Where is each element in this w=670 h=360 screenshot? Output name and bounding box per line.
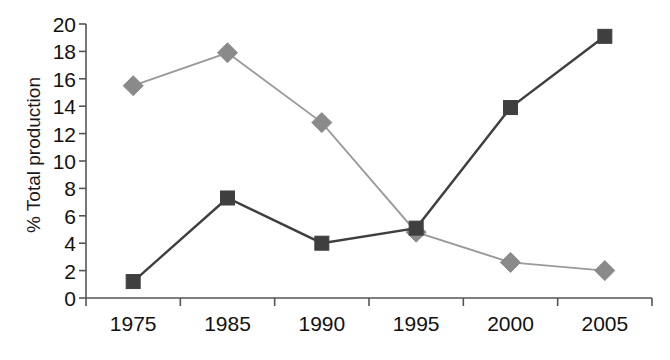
data-point-marker — [315, 236, 329, 250]
series-line-diamond-series — [133, 53, 605, 271]
plot-area — [0, 0, 670, 360]
data-point-marker — [221, 191, 235, 205]
data-series — [123, 29, 615, 288]
data-point-marker — [409, 221, 423, 235]
data-point-marker — [123, 76, 143, 96]
data-point-marker — [501, 252, 521, 272]
series-line-square-series — [133, 36, 605, 281]
data-point-marker — [218, 43, 238, 63]
data-point-marker — [126, 275, 140, 289]
series-square-series — [126, 29, 612, 288]
data-point-marker — [595, 261, 615, 281]
series-diamond-series — [123, 43, 615, 281]
data-point-marker — [598, 29, 612, 43]
chart-figure: % Total production 02468101214161820 197… — [0, 0, 670, 360]
data-point-marker — [504, 101, 518, 115]
